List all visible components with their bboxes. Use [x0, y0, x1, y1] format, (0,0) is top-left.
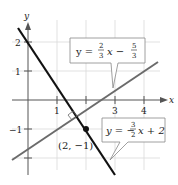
point-label: (2, −1): [58, 140, 93, 151]
svg-text:3: 3: [131, 121, 135, 129]
callout-line2: y = − 3 2 x + 2: [102, 118, 165, 160]
graph: x y 1 3 4 2 1 −1 (2, −1) y = 2 3 x − 5 3…: [0, 0, 178, 185]
tick-label-ym1: −1: [9, 125, 22, 135]
y-axis-label: y: [23, 11, 30, 21]
tick-label-y1: 1: [15, 67, 21, 77]
svg-text:5: 5: [132, 42, 136, 50]
tick-label-x1: 1: [54, 106, 60, 116]
svg-text:x + 2: x + 2: [138, 125, 165, 136]
svg-text:3: 3: [99, 52, 103, 60]
y-axis-arrow-icon: [25, 22, 31, 30]
point-2-neg1: [83, 126, 89, 132]
x-axis-label: x: [169, 95, 174, 105]
callout-line1: y = 2 3 x − 5 3: [70, 38, 145, 88]
x-axis-arrow-icon: [160, 97, 168, 103]
tick-label-x4: 4: [141, 106, 147, 116]
tick-label-y2: 2: [15, 38, 21, 48]
tick-label-x3: 3: [112, 106, 118, 116]
svg-text:2: 2: [131, 131, 135, 139]
svg-text:y =: y =: [75, 46, 93, 57]
svg-text:2: 2: [99, 42, 103, 50]
svg-text:3: 3: [132, 52, 136, 60]
svg-text:x −: x −: [107, 46, 124, 57]
